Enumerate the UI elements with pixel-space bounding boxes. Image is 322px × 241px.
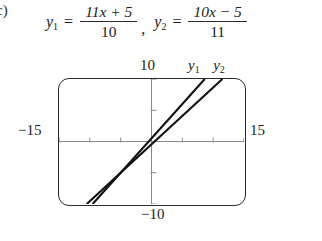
equation-row: y1 = 11x + 5 10 , y2 = 10x − 5 11 — [46, 4, 248, 40]
equation-1-variable: y1 — [46, 13, 59, 31]
curve-label-y1-letter: y — [188, 57, 195, 73]
axis-label-xmax: 15 — [250, 122, 265, 139]
curve-label-y2: y2 — [213, 57, 226, 73]
plot-svg — [59, 79, 244, 204]
equation-2-fraction: 10x − 5 11 — [188, 4, 246, 40]
curve-label-y1: y1 — [188, 57, 201, 73]
equation-1-equals: = — [64, 13, 73, 31]
axis-label-ymax: 10 — [140, 57, 155, 74]
equation-1-variable-subscript: 1 — [53, 21, 58, 32]
curve-label-y2-letter: y — [213, 57, 220, 73]
curve-label-y2-subscript: 2 — [220, 64, 225, 75]
part-label: c) — [0, 2, 8, 19]
calculator-viewing-window[interactable] — [58, 78, 246, 206]
equation-separator-comma: , — [141, 20, 145, 40]
equation-1-fraction: 11x + 5 10 — [80, 4, 137, 40]
graph-block: 10 y1 y2 −15 15 −10 — [0, 58, 322, 241]
curve-label-y1-subscript: 1 — [195, 64, 200, 75]
axis-label-xmin: −15 — [18, 122, 41, 139]
equation-2-variable-subscript: 2 — [161, 21, 166, 32]
equation-2-denominator: 11 — [205, 22, 230, 40]
equation-1-denominator: 10 — [96, 22, 122, 40]
figure-root: c) y1 = 11x + 5 10 , y2 = 10x − 5 11 10 … — [0, 0, 322, 241]
equation-1-numerator: 11x + 5 — [80, 4, 137, 21]
curve-legend-labels: y1 y2 — [188, 57, 226, 74]
axis-label-ymin: −10 — [141, 206, 164, 223]
equation-2-numerator: 10x − 5 — [188, 4, 246, 21]
equation-2-equals: = — [172, 13, 181, 31]
equation-2-variable: y2 — [154, 13, 167, 31]
